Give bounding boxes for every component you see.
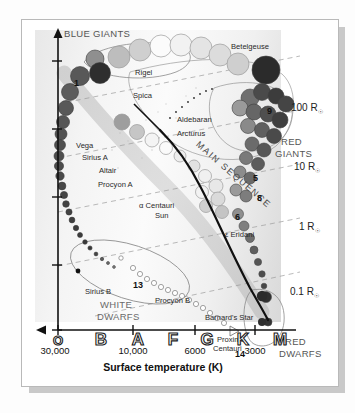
region-label-white-dwarfs-2: DWARFS [97,312,140,322]
sun-symbol-icon: ☉ [315,227,320,234]
radius-text-1: 1 R [299,221,315,232]
spectral-class-A: A [132,330,144,350]
radius-text-10: 10 R [294,161,315,172]
region-label-red-dwarfs-2: DWARFS [279,349,322,359]
marker-8: 8 [257,194,262,203]
marker-9: 9 [267,107,272,116]
spectral-class-G: G [200,330,213,350]
star-label-rigel: Rigel [135,69,152,77]
region-label-white-dwarfs-1: WHITE [100,300,132,310]
star-label-alpha-centauri: α Centauri [139,202,174,210]
spectral-class-K: K [237,330,249,350]
star-label-arcturus: Arcturus [177,130,205,138]
star-label-procyon-b: Procyon B [155,297,190,305]
star-label-betelgeuse: Betelgeuse [231,43,269,51]
radius-label-1: 1 R☉ [299,222,320,235]
radius-text-0.1: 0.1 R [290,286,314,297]
spectral-class-M: M [273,330,287,350]
sun-symbol-icon: ☉ [314,292,319,299]
sun-symbol-icon: ☉ [318,108,323,115]
radius-label-0.1: 0.1 R☉ [290,287,319,300]
star-label-barnards-star: Barnard's Star [205,314,253,322]
spectral-class-O: O [53,333,63,348]
star-label-sirius-a: Sirius A [82,154,108,162]
star-label-sun: Sun [155,212,169,220]
star-label-epsilon-eridani: ε Eridani [225,231,254,239]
region-label-red-giants-1: RED [281,137,302,147]
sun-symbol-icon: ☉ [315,167,320,174]
plot-area: BLUE GIANTS Rigel Spica Betelgeuse Aldeb… [35,22,290,322]
star-label-aldebaran: Aldebaran [177,116,212,124]
spectral-class-B: B [95,330,107,350]
region-label-red-dwarfs-1: RED [285,337,306,347]
marker-6: 6 [235,213,240,222]
marker-1: 1 [74,79,79,88]
star-label-altair: Altair [99,167,116,175]
star-label-sirius-b: Sirius B [85,288,111,296]
spectral-class-F: F [168,330,178,350]
marker-14: 14 [235,350,245,359]
hr-diagram-figure: Luminosity (solar units) 10,000 100 1 0.… [0,0,355,413]
radius-text-100: 100 R [291,102,318,113]
region-label-red-giants-2: GIANTS [275,149,312,159]
star-label-spica: Spica [133,92,152,100]
marker-5: 5 [253,174,258,183]
star-label-vega: Vega [76,142,93,150]
marker-13: 13 [133,281,143,290]
radius-label-100: 100 R☉ [291,103,323,116]
star-label-procyon-a: Procyon A [98,181,133,189]
region-label-blue-giants: BLUE GIANTS [64,29,130,39]
radius-label-10: 10 R☉ [294,162,320,175]
